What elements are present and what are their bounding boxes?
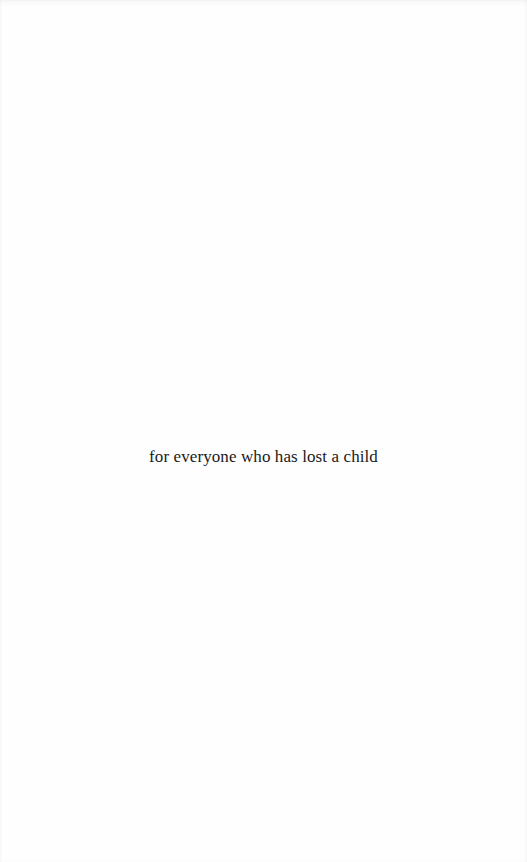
dedication-text: for everyone who has lost a child bbox=[0, 446, 527, 468]
book-page: for everyone who has lost a child bbox=[0, 0, 527, 862]
